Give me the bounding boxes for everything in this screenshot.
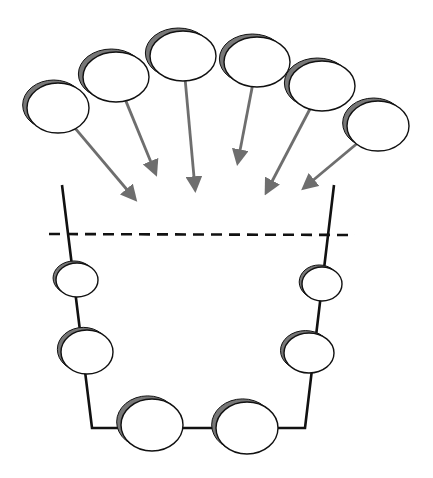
arrow xyxy=(305,144,356,187)
particle-ellipse xyxy=(347,101,409,151)
bound-particle xyxy=(299,265,342,301)
container-outline xyxy=(49,185,355,428)
diagram-canvas xyxy=(0,0,433,478)
incoming-particle xyxy=(23,80,89,133)
incoming-particles xyxy=(23,28,409,151)
incoming-particle xyxy=(284,58,355,111)
dashed-boundary-line xyxy=(49,234,355,235)
particle-ellipse xyxy=(121,399,183,451)
container-wall xyxy=(62,185,334,428)
bound-particle xyxy=(57,327,113,374)
incoming-particle xyxy=(343,98,409,151)
bound-particle xyxy=(212,399,278,454)
particle-ellipse xyxy=(150,31,216,81)
incoming-particle xyxy=(145,28,216,81)
particle-ellipse xyxy=(61,330,113,374)
particle-ellipse xyxy=(284,333,334,373)
arrow xyxy=(238,87,252,161)
particle-ellipse xyxy=(289,61,355,111)
particle-ellipse xyxy=(83,52,149,102)
particle-ellipse xyxy=(224,37,290,87)
incoming-particle xyxy=(219,34,290,87)
arrow xyxy=(126,101,155,172)
arrow xyxy=(185,81,195,188)
bound-particle xyxy=(117,396,183,451)
bound-particle xyxy=(281,331,335,373)
arrow xyxy=(75,129,134,198)
bound-particles xyxy=(53,261,342,454)
bound-particle xyxy=(53,261,98,297)
particle-ellipse xyxy=(27,83,89,133)
particle-ellipse xyxy=(216,402,278,454)
incoming-particle xyxy=(78,49,149,102)
arrow xyxy=(267,109,310,191)
particle-ellipse xyxy=(302,267,342,301)
particle-ellipse xyxy=(56,263,98,297)
